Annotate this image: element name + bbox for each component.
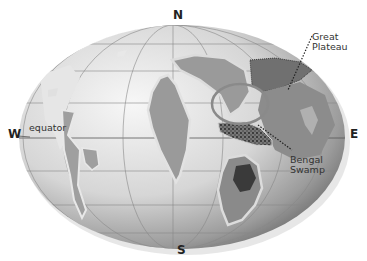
great-plateau-label: Great Plateau	[312, 32, 348, 52]
compass-north: N	[173, 8, 183, 22]
compass-south: S	[177, 243, 186, 257]
compass-east: E	[350, 127, 358, 141]
great-plateau-label-line2: Plateau	[312, 42, 348, 52]
equator-label: equator	[29, 123, 66, 133]
bengal-swamp-label-line2: Swamp	[290, 165, 325, 175]
compass-west: W	[8, 127, 21, 141]
bengal-swamp-label: Bengal Swamp	[290, 155, 325, 175]
